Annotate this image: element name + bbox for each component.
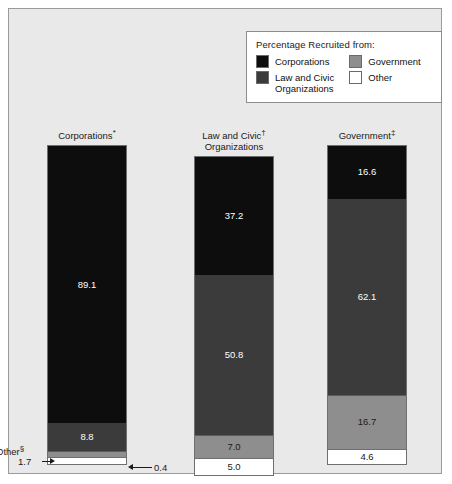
legend-swatch-law-civic-icon	[256, 71, 269, 84]
legend-swatch-government-icon	[349, 55, 362, 68]
bar-title-text-government: Government	[339, 130, 391, 141]
callout-arrow-left-icon	[128, 464, 133, 470]
bar-title-text-corporations: Corporations	[58, 130, 112, 141]
callout-other-text: Other	[0, 446, 20, 457]
bar-title-text-law-civic: Law and Civic	[202, 130, 261, 141]
legend-item-other: Other	[349, 71, 433, 84]
bar-value-government-government: 16.7	[358, 417, 377, 427]
bar-title-law-civic: Law and Civic†Organizations	[194, 127, 274, 152]
legend-title: Percentage Recruited from:	[256, 39, 433, 50]
legend-item-government: Government	[349, 55, 433, 68]
chart-legend: Percentage Recruited from: Corporations …	[246, 31, 442, 103]
legend-label-government: Government	[368, 55, 420, 67]
bar-segment-government-other: 4.6	[328, 449, 406, 465]
chart-screenshot: Percentage Recruited from: Corporations …	[0, 0, 452, 484]
bar-segment-government-law-civic: 62.1	[328, 199, 406, 395]
legend-column-right: Government Other	[349, 55, 433, 97]
callout-value-1-7: 1.7	[18, 456, 31, 467]
bar-value-corporations-law-civic: 8.8	[80, 432, 93, 442]
bar-segment-corporations-corporations: 89.1	[48, 146, 126, 423]
bar-group-government: Government‡ 16.6 62.1 16.7 4.6	[327, 127, 407, 465]
bar-segment-corporations-other: 0.4	[48, 457, 126, 464]
bar-title-corporations: Corporations*	[47, 127, 127, 141]
bar-segment-law-civic-law-civic: 50.8	[195, 275, 273, 436]
bar-group-corporations: Corporations* 89.1 8.8 1.7 0.4 Other§ 1.…	[47, 127, 127, 465]
legend-swatch-other-icon	[349, 71, 362, 84]
callout-value-0-4: 0.4	[154, 462, 167, 473]
bar-value-law-civic-law-civic: 50.8	[225, 350, 244, 360]
callout-arrow-right-icon	[50, 458, 55, 464]
legend-column-left: Corporations Law and Civic Organizations	[256, 55, 349, 97]
bar-title-government: Government‡	[327, 127, 407, 141]
footnote-marker-double-dagger: ‡	[391, 128, 395, 137]
legend-item-law-civic: Law and Civic Organizations	[256, 71, 349, 94]
stacked-bar-government: 16.6 62.1 16.7 4.6	[327, 145, 407, 465]
chart-panel: Percentage Recruited from: Corporations …	[8, 8, 442, 474]
legend-swatch-corporations-icon	[256, 55, 269, 68]
bar-segment-law-civic-government: 7.0	[195, 435, 273, 458]
legend-item-corporations: Corporations	[256, 55, 349, 68]
bar-value-law-civic-corporations: 37.2	[225, 211, 244, 221]
bar-segment-law-civic-other: 5.0	[195, 458, 273, 475]
bar-value-law-civic-government: 7.0	[227, 442, 240, 452]
stacked-bar-corporations: 89.1 8.8 1.7 0.4 Other§ 1.7 0.4	[47, 145, 127, 465]
bar-value-government-law-civic: 62.1	[358, 292, 377, 302]
legend-columns: Corporations Law and Civic Organizations…	[256, 55, 433, 97]
bar-segment-government-government: 16.7	[328, 395, 406, 449]
bar-group-law-civic: Law and Civic†Organizations 37.2 50.8 7.…	[194, 127, 274, 476]
footnote-marker-section: §	[20, 444, 24, 453]
bar-value-law-civic-other: 5.0	[227, 462, 240, 472]
bar-segment-government-corporations: 16.6	[328, 146, 406, 198]
bar-value-corporations-corporations: 89.1	[78, 280, 97, 290]
bar-title-text-law-civic-line2: Organizations	[205, 141, 264, 152]
footnote-marker-asterisk: *	[113, 128, 116, 137]
legend-label-corporations: Corporations	[275, 55, 329, 67]
legend-label-other: Other	[368, 71, 392, 83]
stacked-bar-law-civic: 37.2 50.8 7.0 5.0	[194, 156, 274, 476]
bar-segment-corporations-law-civic: 8.8	[48, 423, 126, 450]
legend-label-law-civic: Law and Civic Organizations	[275, 71, 349, 94]
bar-segment-law-civic-corporations: 37.2	[195, 157, 273, 275]
bar-value-government-other: 4.6	[360, 452, 373, 462]
callout-leader-line-0-4	[130, 467, 152, 468]
footnote-marker-dagger: †	[261, 128, 265, 137]
bar-value-government-corporations: 16.6	[358, 167, 377, 177]
